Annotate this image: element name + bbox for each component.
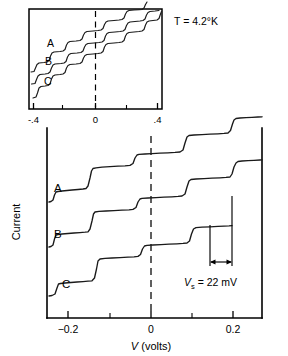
- inset-curve-label-b: B: [45, 55, 52, 67]
- inset-xtick-label-pos04: .4: [154, 114, 162, 125]
- main-xtick-label-zero: 0: [148, 323, 154, 335]
- main-curve-label-b: B: [54, 228, 62, 240]
- vs-arrow-head-left: [210, 260, 216, 265]
- vs-arrow-head-right: [227, 260, 233, 265]
- main-x-axis-title-units: (volts): [138, 340, 171, 352]
- temperature-label: T = 4.2°K: [174, 15, 218, 27]
- inset-curve-label-c: C: [44, 75, 52, 87]
- main-x-axis-title: V (volts): [131, 340, 171, 352]
- vs-annotation-value: = 22 mV: [195, 276, 237, 288]
- main-y-axis-title: Current: [10, 204, 22, 241]
- inset-panel: A B C -.4 0 .4: [28, 2, 162, 125]
- inset-trace-a: [33, 12, 162, 99]
- vs-measurement-annotation: Vs = 22 mV: [184, 196, 237, 291]
- main-x-ticks: [68, 311, 233, 318]
- iv-characteristic-figure: A B C -.4 0 .4 T = 4.2°K: [0, 0, 288, 356]
- main-curve-label-a: A: [54, 182, 62, 194]
- main-xtick-label-pos02: 0.2: [226, 323, 241, 335]
- main-curve-label-c: C: [62, 278, 70, 290]
- inset-curve-label-a: A: [47, 37, 54, 49]
- main-xtick-label-neg02: −0.2: [58, 323, 79, 335]
- figure-container: A B C -.4 0 .4 T = 4.2°K: [0, 0, 288, 356]
- inset-xtick-label-zero: 0: [93, 114, 98, 125]
- inset-xtick-label-neg04: -.4: [28, 114, 39, 125]
- vs-annotation-text: Vs = 22 mV: [184, 276, 237, 291]
- main-trace-b: [49, 160, 262, 247]
- main-panel: A B C Vs = 22 mV −0.2 0 0.2 V (volts): [10, 117, 262, 352]
- main-trace-a: [49, 117, 262, 202]
